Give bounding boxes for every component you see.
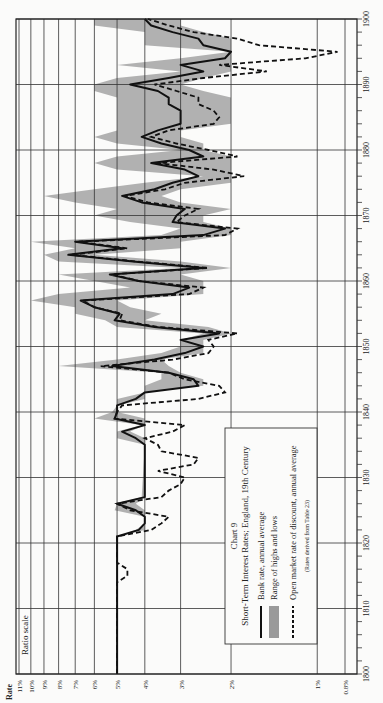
year-tick-label: 1840 — [362, 404, 371, 420]
range-of-highs-and-lows-band — [31, 19, 231, 537]
range-band-area — [31, 19, 231, 537]
legend: Chart 9 Short-Term Interest Rates; Engla… — [225, 428, 317, 644]
year-tick-label: 1880 — [362, 142, 371, 158]
legend-subtitle: Short-Term Interest Rates; England, 19th… — [240, 446, 250, 626]
year-tick-label: 1850 — [362, 339, 371, 355]
rate-tick-label: 11% — [16, 680, 24, 693]
year-tick-label: 1810 — [362, 601, 371, 617]
rate-tick-label: 2% — [228, 680, 236, 690]
rate-tick-label: 0.8% — [342, 680, 350, 695]
year-tick-label: 1820 — [362, 535, 371, 551]
rate-tick-label: 7% — [72, 680, 80, 690]
range-swatch — [269, 606, 279, 638]
year-tick-label: 1890 — [362, 77, 371, 93]
ratio-scale-label: Ratio scale — [20, 615, 30, 655]
year-tick-label: 1860 — [362, 273, 371, 289]
legend-title: Chart 9 — [229, 522, 239, 549]
rate-tick-label: 5% — [114, 680, 122, 690]
rate-tick-label: 4% — [142, 680, 150, 690]
rate-tick-label: 1% — [314, 680, 322, 690]
legend-source-note: (Rates derived from Table 23) — [304, 500, 311, 572]
rate-tick-label: 10% — [28, 680, 36, 693]
legend-item-market-rate: Open market rate of discount, annual ave… — [288, 445, 298, 600]
year-tick-label: 1830 — [362, 470, 371, 486]
rate-tick-label: 8% — [56, 680, 64, 690]
year-tick-label: 1900 — [362, 11, 371, 27]
legend-item-range: Range of highs and lows — [269, 516, 279, 600]
interest-rate-chart: 1800181018201830184018501860187018801890… — [0, 0, 383, 703]
legend-item-bank-rate: Bank rate, annual average — [256, 512, 266, 600]
year-tick-label: 1800 — [362, 666, 371, 682]
rate-axis-title: Rate — [5, 684, 14, 700]
rate-tick-label: 3% — [178, 680, 186, 690]
year-tick-label: 1870 — [362, 208, 371, 224]
rate-tick-label: 6% — [91, 680, 99, 690]
rate-tick-label: 9% — [41, 680, 49, 690]
